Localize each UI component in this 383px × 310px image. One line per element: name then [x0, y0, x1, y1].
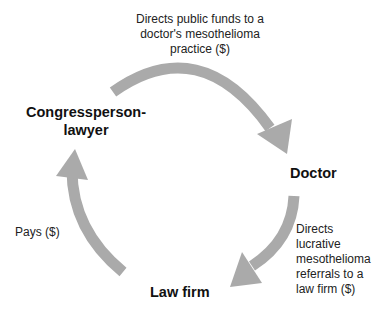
- node-law-firm: Law firm: [150, 283, 210, 301]
- edge-label-lawfirm-to-congress: Pays ($): [15, 225, 60, 240]
- label-line: Directs: [296, 222, 382, 237]
- node-label-line: lawyer: [26, 121, 146, 139]
- label-line: referrals to a: [296, 267, 382, 282]
- node-congressperson-lawyer: Congressperson- lawyer: [26, 103, 146, 139]
- arrow-shaft: [252, 196, 294, 266]
- node-label-line: Congressperson-: [26, 103, 146, 121]
- edge-label-doctor-to-lawfirm: Directs lucrative mesothelioma referrals…: [296, 222, 382, 297]
- label-line: Directs public funds to a: [125, 12, 275, 27]
- arrow-shaft: [72, 170, 123, 272]
- label-line: lucrative: [296, 237, 382, 252]
- label-line: practice ($): [125, 42, 275, 57]
- arrowhead: [56, 149, 88, 180]
- arrow-lawfirm-to-congress: [56, 149, 123, 272]
- arrow-doctor-to-lawfirm: [230, 196, 294, 287]
- label-line: law firm ($): [296, 282, 382, 297]
- label-line: doctor's mesothelioma: [125, 27, 275, 42]
- label-line: mesothelioma: [296, 252, 382, 267]
- edge-label-congress-to-doctor: Directs public funds to a doctor's mesot…: [125, 12, 275, 57]
- node-doctor: Doctor: [290, 164, 337, 182]
